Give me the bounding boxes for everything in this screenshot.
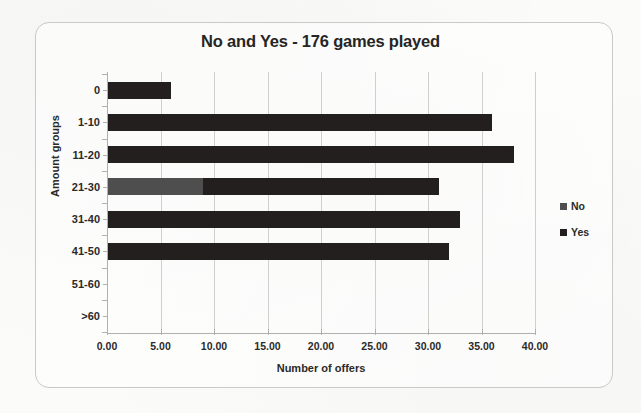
bar-segment-yes (203, 178, 438, 195)
y-axis-tick (102, 74, 108, 75)
x-axis-label-15.00: 15.00 (238, 340, 298, 352)
legend-label: No (571, 200, 585, 212)
bar-row (107, 243, 449, 260)
x-axis-tick (482, 329, 483, 335)
x-axis-tick (161, 329, 162, 335)
x-axis-tick (375, 329, 376, 335)
y-axis-tick (102, 106, 108, 107)
x-axis-tick (214, 329, 215, 335)
legend-item-no[interactable]: No (560, 200, 616, 212)
bar-row (107, 178, 439, 195)
chart-legend: NoYes (560, 200, 616, 252)
bar-row (107, 82, 171, 99)
y-axis-tick-minor (103, 155, 108, 156)
y-axis-label-60: >60 (44, 310, 100, 322)
bar-row (107, 114, 492, 131)
y-axis-tick-minor (103, 219, 108, 220)
legend-label: Yes (571, 226, 589, 238)
bar-segment-yes (107, 211, 460, 228)
x-axis-tick (321, 329, 322, 335)
y-axis-tick-minor (103, 122, 108, 123)
y-axis-tick (102, 268, 108, 269)
y-axis-label-41-50: 41-50 (44, 245, 100, 257)
y-axis-title: Amount groups (49, 96, 61, 216)
y-axis-tick-minor (103, 251, 108, 252)
gridline-x-40.00 (535, 72, 536, 332)
x-axis-tick (268, 329, 269, 335)
x-axis-label-5.00: 5.00 (131, 340, 191, 352)
x-axis-label-20.00: 20.00 (291, 340, 351, 352)
bar-row (107, 211, 460, 228)
x-axis-label-10.00: 10.00 (184, 340, 244, 352)
x-axis-tick (535, 329, 536, 335)
bar-segment-yes (107, 114, 492, 131)
y-axis-label-51-60: 51-60 (44, 278, 100, 290)
y-axis-label-0: 0 (44, 84, 100, 96)
y-axis-tick-minor (103, 90, 108, 91)
x-axis-title: Number of offers (107, 362, 535, 374)
y-axis-tick-minor (103, 316, 108, 317)
x-axis-tick (428, 329, 429, 335)
y-axis-tick (102, 203, 108, 204)
y-axis-tick-minor (103, 187, 108, 188)
legend-item-yes[interactable]: Yes (560, 226, 616, 238)
chart-page: No and Yes - 176 games played 01-1011-20… (0, 0, 641, 413)
bar-segment-yes (107, 146, 514, 163)
x-axis-tick (107, 329, 108, 335)
x-axis-label-35.00: 35.00 (452, 340, 512, 352)
bar-segment-no (107, 178, 203, 195)
x-axis-label-30.00: 30.00 (398, 340, 458, 352)
y-axis-tick (102, 300, 108, 301)
legend-swatch-icon (560, 203, 567, 210)
legend-swatch-icon (560, 229, 567, 236)
y-axis-tick (102, 139, 108, 140)
plot-area (107, 74, 535, 332)
x-axis-label-40.00: 40.00 (505, 340, 565, 352)
x-axis-label-25.00: 25.00 (345, 340, 405, 352)
bar-row (107, 146, 514, 163)
bar-segment-yes (107, 82, 171, 99)
y-axis-tick-minor (103, 284, 108, 285)
bar-segment-yes (107, 243, 449, 260)
x-axis-label-0.00: 0.00 (77, 340, 137, 352)
y-axis-tick (102, 171, 108, 172)
y-axis-tick (102, 235, 108, 236)
